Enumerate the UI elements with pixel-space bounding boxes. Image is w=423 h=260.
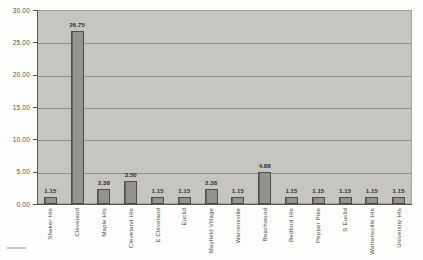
gridline xyxy=(38,140,411,141)
bar xyxy=(392,197,405,204)
bar-chart-figure: 30.0025.0020.0015.0010.005.000.00 1.15Sh… xyxy=(0,0,423,260)
y-axis-tick-label: 25.00 xyxy=(4,39,30,46)
plot-area xyxy=(37,10,412,204)
y-axis-tick-label: 5.00 xyxy=(4,168,30,175)
bar-value-label: 1.15 xyxy=(393,188,405,194)
x-axis-category-label: Cleveland xyxy=(73,208,81,236)
bar-value-label: 1.15 xyxy=(232,188,244,194)
y-axis-tick-label: 0.00 xyxy=(4,201,30,208)
bar xyxy=(285,197,298,204)
bar-value-label: 2.38 xyxy=(98,180,110,186)
x-axis-category-label: Pepper Pike xyxy=(314,208,322,243)
bar xyxy=(231,197,244,204)
x-axis-category-label: S Euclid xyxy=(341,208,349,232)
bar xyxy=(258,172,271,204)
bar xyxy=(124,181,137,204)
x-axis-category-label: Maple Hts xyxy=(100,208,108,237)
x-axis-line xyxy=(37,204,412,205)
bar-value-label: 1.15 xyxy=(339,188,351,194)
bar xyxy=(178,197,191,204)
caption-artifact xyxy=(7,247,26,249)
x-axis-category-label: University Hts xyxy=(395,208,403,248)
gridline xyxy=(38,76,411,77)
gridline xyxy=(38,43,411,44)
x-axis-category-label: Euclid xyxy=(180,208,188,226)
bar xyxy=(71,31,84,204)
bar xyxy=(205,189,218,204)
bar xyxy=(312,197,325,204)
bar-value-label: 1.15 xyxy=(366,188,378,194)
x-axis-category-label: Cleveland Hts xyxy=(127,208,135,248)
bar xyxy=(97,189,110,204)
x-axis-category-label: Bedford Hts xyxy=(287,208,295,242)
y-axis-line xyxy=(37,10,38,204)
y-axis-tick-label: 10.00 xyxy=(4,136,30,143)
bar-value-label: 2.38 xyxy=(205,180,217,186)
x-axis-category-label: Warrensville Hts xyxy=(368,208,376,255)
x-axis-category-label: Beachwood xyxy=(261,208,269,241)
x-axis-category-label: Shaker Hts xyxy=(46,208,54,240)
y-axis-tick-label: 15.00 xyxy=(4,104,30,111)
gridline xyxy=(38,173,411,174)
gridline xyxy=(38,108,411,109)
bar-value-label: 4.88 xyxy=(259,163,271,169)
bar xyxy=(44,197,57,204)
bar xyxy=(151,197,164,204)
y-axis-tick-label: 20.00 xyxy=(4,71,30,78)
y-axis-tick-label: 30.00 xyxy=(4,7,30,14)
bar-value-label: 1.15 xyxy=(285,188,297,194)
x-axis-category-label: E Cleveland xyxy=(154,208,162,243)
bar-value-label: 3.50 xyxy=(125,172,137,178)
bar xyxy=(339,197,352,204)
bar-value-label: 1.15 xyxy=(44,188,56,194)
bar-value-label: 1.15 xyxy=(151,188,163,194)
x-axis-category-label: Warrensville xyxy=(234,208,242,243)
bar-value-label: 1.15 xyxy=(178,188,190,194)
bar-value-label: 1.15 xyxy=(312,188,324,194)
bar xyxy=(365,197,378,204)
x-axis-category-label: Mayfield Village xyxy=(207,208,215,253)
bar-value-label: 26.75 xyxy=(69,22,85,28)
